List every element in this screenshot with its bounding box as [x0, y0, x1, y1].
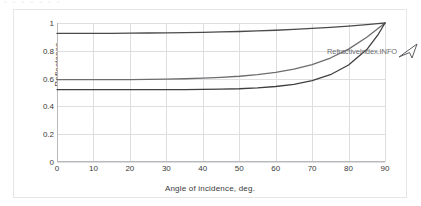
arrow-triangle-icon	[398, 43, 418, 59]
y-tick-label: 1	[14, 19, 54, 28]
x-tick-label: 80	[337, 164, 361, 173]
plot-area: 00.20.40.60.81 0102030405060708090 Refra…	[57, 23, 385, 162]
curve-rs	[57, 23, 385, 33]
toolbar-ghost-text: •••••••	[4, 0, 66, 6]
chart-screenshot: ••••••• Reflectance 00.20.40.60.81 01020…	[0, 0, 421, 206]
x-tick-label: 60	[264, 164, 288, 173]
x-tick-label: 70	[300, 164, 324, 173]
y-tick-label: 0.4	[14, 102, 54, 111]
gridline-vertical	[385, 23, 386, 162]
figure: Reflectance 00.20.40.60.81 0102030405060…	[14, 10, 406, 197]
x-tick-label: 20	[118, 164, 142, 173]
gridline-horizontal	[57, 162, 385, 163]
curve-series-group	[57, 23, 385, 162]
y-tick-label: 0.8	[14, 47, 54, 56]
x-tick-label: 90	[373, 164, 397, 173]
x-tick-label: 30	[154, 164, 178, 173]
x-tick-label: 40	[191, 164, 215, 173]
chart-card: Reflectance 00.20.40.60.81 0102030405060…	[13, 9, 407, 198]
y-tick-label: 0.2	[14, 130, 54, 139]
x-axis-title: Angle of incidence, deg.	[14, 184, 406, 193]
x-tick-label: 0	[45, 164, 69, 173]
x-tick-label: 50	[227, 164, 251, 173]
x-tick-label: 10	[81, 164, 105, 173]
clipped-toolbar-remnant: •••••••	[0, 0, 421, 7]
y-tick-label: 0.6	[14, 75, 54, 84]
